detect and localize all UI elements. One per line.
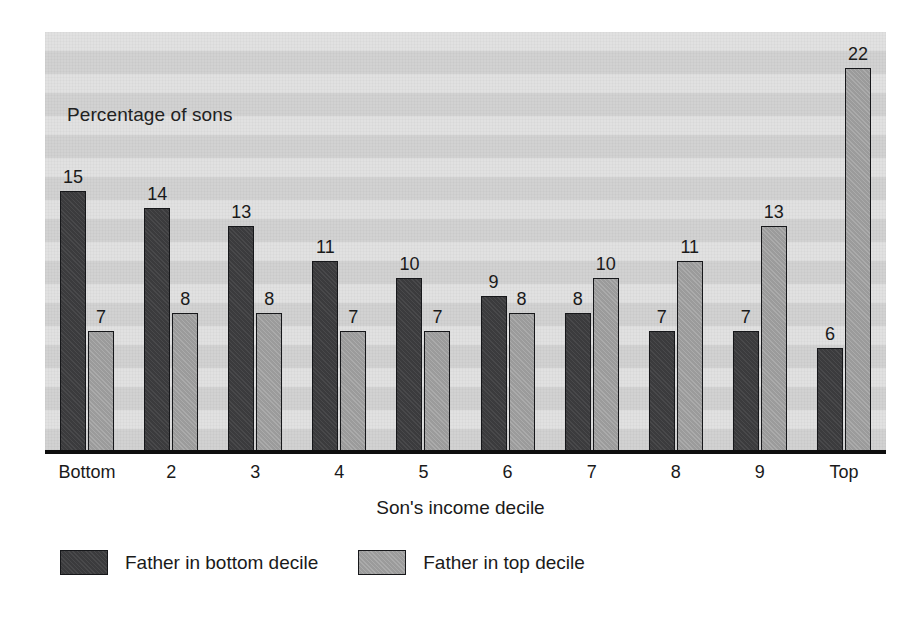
bar-value-label: 7 [416,307,458,328]
bar-group: 157 [60,32,114,453]
x-tick-label: Bottom [45,462,129,483]
x-tick-label: 7 [550,462,634,483]
bar-value-label: 13 [220,202,262,223]
chart-legend: Father in bottom decile Father in top de… [60,550,585,575]
legend-swatch-icon-dark [60,550,108,575]
bar[interactable] [509,313,535,453]
bar[interactable] [172,313,198,453]
bars-layer: 15714813811710798810711713622 [45,32,886,453]
bar[interactable] [565,313,591,453]
bar-value-label: 10 [388,254,430,275]
bar-value-label: 7 [80,307,122,328]
x-tick-label: 6 [466,462,550,483]
x-tick-label: 8 [634,462,718,483]
bar[interactable] [733,331,759,454]
x-tick-label: 4 [297,462,381,483]
bar[interactable] [256,313,282,453]
bar-value-label: 10 [585,254,627,275]
x-axis-tick-labels: Bottom23456789Top [45,462,886,490]
bar[interactable] [845,68,871,453]
bar-group: 622 [817,32,871,453]
bar-group: 148 [144,32,198,453]
bar[interactable] [88,331,114,454]
bar[interactable] [761,226,787,454]
bar[interactable] [593,278,619,453]
bar[interactable] [340,331,366,454]
bar-value-label: 13 [753,202,795,223]
legend-item-father-top-decile[interactable]: Father in top decile [358,550,585,575]
bar-group: 138 [228,32,282,453]
bar[interactable] [649,331,675,454]
bar-value-label: 15 [52,167,94,188]
bar[interactable] [396,278,422,453]
bar-value-label: 11 [669,237,711,258]
bar-value-label: 22 [837,44,879,65]
bar[interactable] [481,296,507,454]
legend-label-father-bottom-decile: Father in bottom decile [125,552,318,574]
legend-label-father-top-decile: Father in top decile [423,552,585,574]
bar-group: 117 [312,32,366,453]
legend-swatch-icon-light [358,550,406,575]
x-tick-label: 2 [129,462,213,483]
x-axis-title: Son's income decile [0,497,921,519]
bar-group: 107 [396,32,450,453]
bar-group: 713 [733,32,787,453]
bar[interactable] [677,261,703,454]
bar-group: 98 [481,32,535,453]
bar-group: 810 [565,32,619,453]
x-tick-label: 9 [718,462,802,483]
bar-value-label: 8 [501,289,543,310]
bar-value-label: 11 [304,237,346,258]
bar-group: 711 [649,32,703,453]
bar[interactable] [424,331,450,454]
bar[interactable] [817,348,843,453]
bar-value-label: 8 [248,289,290,310]
bar-chart-figure: Percentage of sons 157148138117107988107… [0,0,921,632]
bar-value-label: 8 [164,289,206,310]
x-tick-label: 3 [213,462,297,483]
bar[interactable] [228,226,254,454]
bar[interactable] [144,208,170,453]
x-tick-label: Top [802,462,886,483]
x-axis-line [45,450,886,454]
bar-value-label: 14 [136,184,178,205]
bar[interactable] [312,261,338,454]
bar-value-label: 7 [332,307,374,328]
x-tick-label: 5 [381,462,465,483]
legend-item-father-bottom-decile[interactable]: Father in bottom decile [60,550,318,575]
